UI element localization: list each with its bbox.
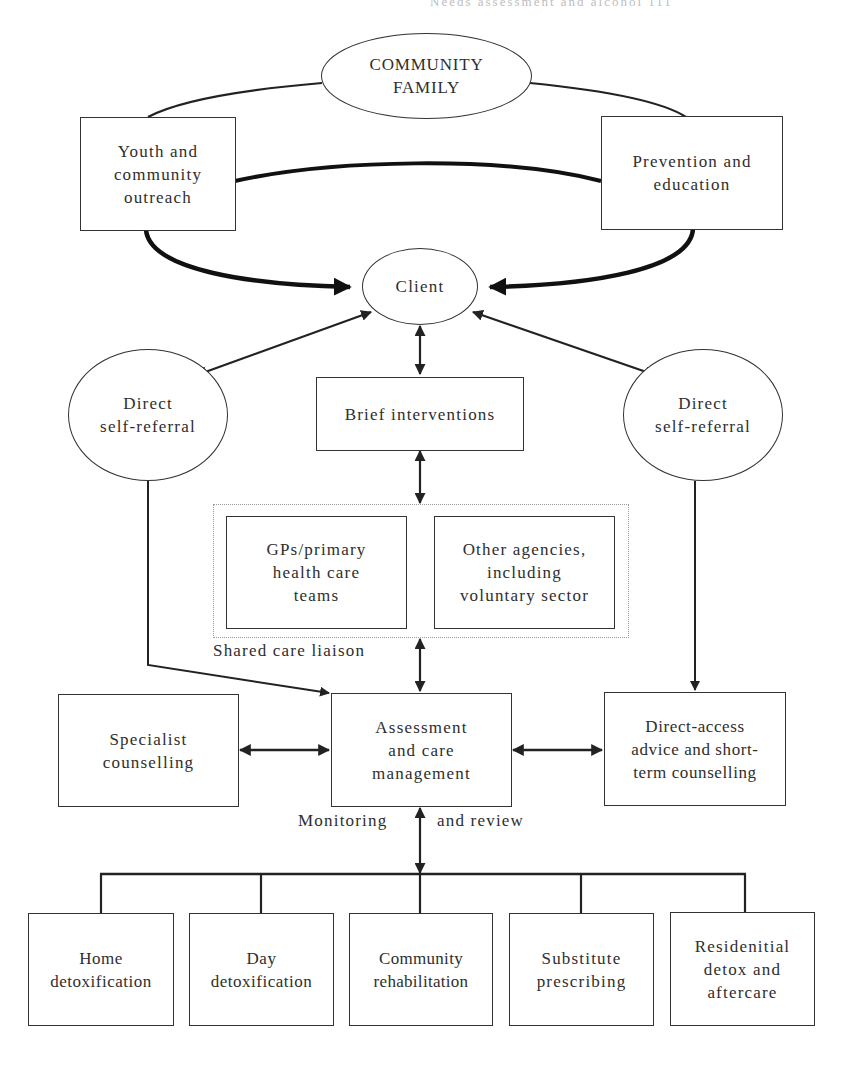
brief-interventions-node: Brief interventions: [316, 377, 524, 451]
direct-access-counselling-node: Direct-access advice and short- term cou…: [604, 692, 786, 806]
arc-community-youth: [148, 83, 322, 117]
direct-self-referral-right-node: Direct self-referral: [623, 349, 783, 481]
arc-community-prevention: [530, 83, 686, 117]
client-node: Client: [362, 248, 478, 325]
direct-self-referral-left-node: Direct self-referral: [68, 349, 228, 481]
arrow-prevention-client: [490, 229, 693, 287]
arc-youth-prevention: [235, 163, 601, 181]
youth-outreach-node: Youth and community outreach: [80, 117, 236, 231]
monitoring-label: Monitoring: [298, 811, 387, 831]
specialist-counselling-node: Specialist counselling: [58, 694, 239, 807]
review-label: and review: [437, 811, 524, 831]
arrow-client-left-referral: [197, 312, 371, 375]
shared-care-liaison-label: Shared care liaison: [213, 641, 365, 661]
service-substitute-prescribing: Substitute prescribing: [509, 913, 654, 1026]
gps-primary-care-node: GPs/primary health care teams: [226, 516, 407, 629]
arrow-youth-client: [146, 230, 350, 287]
service-day-detox: Day detoxification: [189, 913, 334, 1026]
service-community-rehab: Community rehabilitation: [349, 913, 493, 1026]
community-family-node: COMMUNITY FAMILY: [321, 33, 532, 119]
prevention-education-node: Prevention and education: [601, 116, 783, 230]
other-agencies-node: Other agencies, including voluntary sect…: [434, 516, 615, 629]
arrow-client-right-referral: [473, 312, 655, 375]
service-home-detox: Home detoxification: [28, 913, 174, 1026]
assessment-care-management-node: Assessment and care management: [331, 693, 512, 807]
service-residential-detox: Residenitial detox and aftercare: [670, 912, 815, 1026]
